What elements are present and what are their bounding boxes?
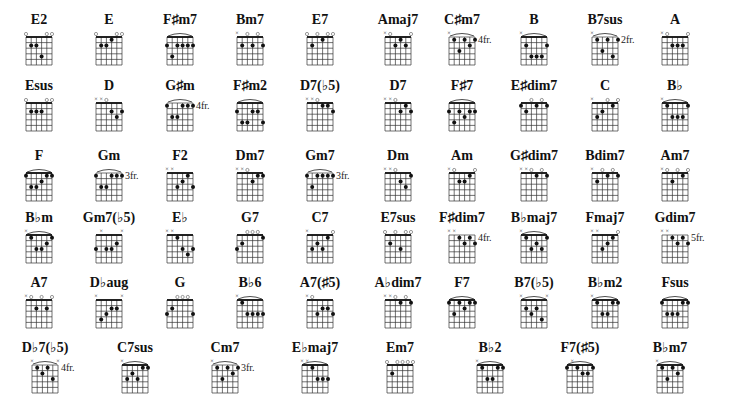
- chord-name: Gm7: [285, 148, 355, 164]
- finger-dot: [473, 109, 477, 113]
- fretboard-grid: ××: [363, 291, 433, 341]
- chord-name: D7: [363, 78, 433, 94]
- fretboard-grid: ×3fr.: [190, 356, 260, 406]
- fretboard-grid: ×: [640, 164, 710, 214]
- chord-diagram: F: [4, 148, 74, 218]
- muted-string-icon: ×: [235, 166, 238, 172]
- finger-dot: [29, 109, 33, 113]
- muted-string-icon: ×: [100, 96, 103, 102]
- open-string-icon: [401, 360, 404, 363]
- chord-diagram: B×: [499, 12, 569, 82]
- finger-dot: [463, 306, 467, 310]
- finger-dot: [468, 301, 472, 305]
- open-string-icon: [326, 32, 329, 35]
- open-string-icon: [311, 295, 314, 298]
- finger-dot: [104, 43, 108, 47]
- finger-dot: [191, 43, 195, 47]
- muted-string-icon: ×: [389, 166, 392, 172]
- barre-arc: [593, 34, 617, 37]
- chord-diagram: B♭m2×: [570, 275, 640, 345]
- finger-dot: [99, 43, 103, 47]
- open-string-icon: [530, 168, 533, 171]
- finger-dot: [181, 104, 185, 108]
- open-string-icon: [686, 32, 689, 35]
- finger-dot: [524, 306, 528, 310]
- chord-diagram: Fmaj7××: [570, 210, 640, 280]
- finger-dot: [388, 241, 392, 245]
- finger-dot: [321, 306, 325, 310]
- muted-string-icon: ×: [389, 293, 392, 299]
- chord-name: B: [499, 12, 569, 28]
- chord-name: Bdim7: [570, 148, 640, 164]
- muted-string-icon: ×: [305, 96, 308, 102]
- finger-dot: [34, 109, 38, 113]
- muted-string-icon: ×: [235, 293, 238, 299]
- finger-dot: [181, 43, 185, 47]
- finger-dot: [34, 247, 38, 251]
- finger-dot: [595, 179, 599, 183]
- chord-diagram: Em7: [365, 340, 435, 410]
- finger-dot: [170, 306, 174, 310]
- finger-dot: [535, 55, 539, 59]
- chord-diagram: Gm7(♭5)××: [74, 210, 144, 280]
- chord-diagram: F7(♯5)×: [545, 340, 615, 410]
- finger-dot: [540, 55, 544, 59]
- fretboard-grid: ××: [363, 164, 433, 214]
- finger-dot: [686, 241, 690, 245]
- open-string-icon: [316, 98, 319, 101]
- finger-dot: [600, 109, 604, 113]
- open-string-icon: [530, 98, 533, 101]
- fretboard-grid: ×: [570, 94, 640, 144]
- finger-dot: [670, 236, 674, 240]
- muted-string-icon: ×: [453, 228, 456, 234]
- fretboard-grid: ×: [4, 226, 74, 276]
- fret-position-label: 3fr.: [241, 362, 255, 373]
- chord-diagram: E♭maj7××: [280, 340, 350, 410]
- chord-diagram: Gm3fr.: [74, 148, 144, 218]
- fretboard-grid: [285, 28, 355, 78]
- finger-dot: [496, 366, 500, 370]
- finger-dot: [606, 312, 610, 316]
- chord-diagram: B♭m×: [4, 210, 74, 280]
- finger-dot: [136, 377, 140, 381]
- finger-dot: [110, 306, 114, 310]
- finger-dot: [186, 104, 190, 108]
- open-string-icon: [45, 98, 48, 101]
- finger-dot: [175, 115, 179, 119]
- open-string-icon: [176, 295, 179, 298]
- finger-dot: [40, 247, 44, 251]
- fret-position-label: 3fr.: [336, 170, 350, 181]
- muted-string-icon: ×: [94, 96, 97, 102]
- open-string-icon: [404, 230, 407, 233]
- finger-dot: [251, 312, 255, 316]
- finger-dot: [463, 179, 467, 183]
- finger-dot: [240, 43, 244, 47]
- finger-dot: [575, 366, 579, 370]
- fretboard-grid: [74, 28, 144, 78]
- muted-string-icon: ×: [120, 228, 123, 234]
- open-string-icon: [666, 32, 669, 35]
- fretboard-grid: ×: [640, 94, 710, 144]
- finger-dot: [670, 43, 674, 47]
- open-string-icon: [396, 360, 399, 363]
- finger-dot: [326, 306, 330, 310]
- fretboard-grid: ××: [74, 94, 144, 144]
- finger-dot: [331, 312, 335, 316]
- chord-diagram: B♭×: [640, 78, 710, 148]
- open-string-icon: [256, 32, 259, 35]
- finger-dot: [99, 318, 103, 322]
- muted-string-icon: ×: [235, 30, 238, 36]
- chord-diagram: B♭6×: [215, 275, 285, 345]
- finger-dot: [676, 43, 680, 47]
- finger-dot: [326, 377, 330, 381]
- finger-dot: [468, 43, 472, 47]
- muted-string-icon: ×: [210, 358, 213, 364]
- chord-diagram: C×: [570, 78, 640, 148]
- chord-diagram: Bm7×: [215, 12, 285, 82]
- fretboard-grid: ××: [74, 291, 144, 341]
- muted-string-icon: ×: [660, 228, 663, 234]
- open-string-icon: [686, 168, 689, 171]
- finger-dot: [463, 38, 467, 42]
- barre-arc: [522, 34, 546, 37]
- finger-dot: [535, 306, 539, 310]
